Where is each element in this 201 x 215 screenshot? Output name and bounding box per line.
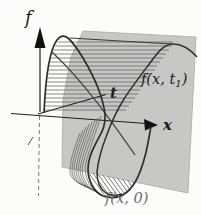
f-axis-arrowhead-icon [35,27,46,48]
wave-t0-label: f(x, 0) [104,190,148,206]
wave-figure: f x t f(x, t1) f(x, 0) [0,0,201,215]
wave-figure-canvas: f x t f(x, t1) f(x, 0) [0,0,201,215]
f-axis-label: f [23,7,35,28]
x-axis-label: x [162,116,173,134]
tick-mark [28,137,33,145]
t-axis-label: t [110,84,117,102]
